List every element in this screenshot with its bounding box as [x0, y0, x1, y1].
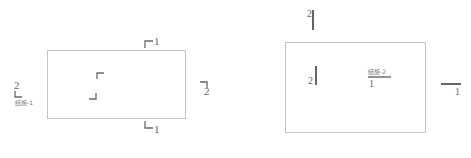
label-inner-2: 2 [308, 75, 313, 86]
section-mark-bottom-1 [145, 121, 153, 128]
section-mark-left-2 [15, 91, 22, 97]
label-right-1: 1 [455, 86, 460, 97]
label-bottom-1: 1 [154, 124, 160, 135]
drawing-canvas [0, 0, 471, 158]
left-plan-rectangle [48, 51, 186, 119]
label-right-2: 2 [204, 86, 210, 97]
label-top-1: 1 [154, 36, 160, 47]
right-plan-rectangle [286, 43, 426, 133]
section-mark-top-1 [145, 41, 153, 48]
label-left-2: 2 [14, 80, 20, 91]
index-ref-label: 结施-2 [368, 69, 386, 75]
label-left-ref: 结施-1 [15, 100, 33, 106]
index-number-label: 1 [369, 78, 374, 89]
inner-cut-mark-upper [97, 73, 104, 79]
inner-cut-mark-lower [89, 93, 96, 99]
label-top-2: 2 [307, 8, 312, 19]
